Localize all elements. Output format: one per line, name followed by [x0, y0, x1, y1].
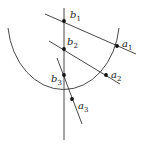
geometry-diagram: b1b2b3a1a2a3: [0, 0, 146, 147]
secant-lines: [45, 14, 136, 124]
point-a1: [115, 44, 119, 48]
semicircle-arc: [8, 28, 119, 90]
label-a1: a1: [122, 38, 132, 52]
point-b1: [62, 19, 66, 23]
point-a2: [104, 73, 108, 77]
label-b3: b3: [51, 73, 62, 87]
point-b2: [62, 47, 66, 51]
label-a2: a2: [111, 69, 121, 83]
labeled-points: b1b2b3a1a2a3: [51, 9, 132, 114]
label-b2: b2: [67, 36, 78, 50]
point-b3: [62, 73, 66, 77]
point-a3: [70, 97, 74, 101]
line-3: [57, 58, 82, 124]
label-b1: b1: [70, 9, 81, 23]
label-a3: a3: [78, 100, 88, 114]
